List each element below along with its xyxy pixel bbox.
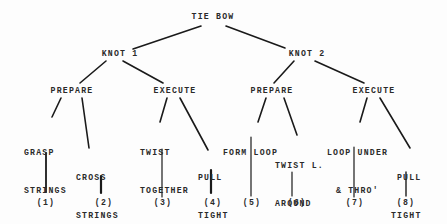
leaf-number-8: (8): [397, 197, 415, 210]
leaf-number-5: (5): [243, 197, 261, 210]
edge-knot1-execute: [123, 61, 163, 83]
node-knot2-execute: EXECUTE: [353, 85, 396, 98]
node-knot1-execute: EXECUTE: [154, 85, 197, 98]
edge-knot2-execute: [315, 61, 364, 83]
node-knot2-prepare: PREPARE: [251, 85, 294, 98]
edge-prepare2-form: [258, 98, 266, 122]
edge-execute1-twist: [160, 98, 167, 122]
edge-root-knot2: [226, 26, 285, 48]
leaf-line: & THRO': [327, 185, 388, 198]
leaf-twist-l-around-loop: TWIST L. AROUND LOOP: [275, 135, 324, 224]
leaf-number-6: (6): [288, 197, 306, 210]
edge-knot2-prepare: [274, 61, 294, 83]
node-knot-1: KNOT 1: [102, 48, 139, 61]
leaf-form-loop: FORM LOOP: [223, 122, 278, 185]
leaf-line: TIGHT: [391, 210, 422, 223]
leaf-number-2: (2): [95, 197, 113, 210]
leaf-cross-strings: CROSS STRINGS: [76, 147, 119, 224]
leaf-line: TWIST L.: [275, 160, 324, 173]
leaf-line: STRINGS: [24, 185, 67, 198]
leaf-number-4: (4): [204, 197, 222, 210]
leaf-line: TIGHT: [198, 210, 229, 223]
leaf-pull-tight-2: PULL TIGHT: [391, 147, 422, 224]
leaf-number-1: (1): [37, 197, 55, 210]
leaf-line: CROSS: [76, 172, 119, 185]
leaf-line: TWIST: [140, 147, 189, 160]
leaf-line: FORM LOOP: [223, 147, 278, 160]
node-knot1-prepare: PREPARE: [51, 85, 94, 98]
task-hierarchy-diagram: TIE BOW KNOT 1 KNOT 2 PREPARE EXECUTE PR…: [0, 0, 447, 224]
edge-root-knot1: [133, 26, 201, 49]
edge-prepare2-twistl: [284, 98, 297, 135]
edge-knot1-prepare: [80, 61, 106, 83]
node-knot-2: KNOT 2: [289, 48, 326, 61]
node-tie-bow: TIE BOW: [192, 11, 235, 24]
leaf-number-7: (7): [346, 197, 364, 210]
edge-prepare1-grasp: [52, 98, 61, 117]
leaf-line: TOGETHER: [140, 185, 189, 198]
leaf-number-3: (3): [154, 197, 172, 210]
edge-execute2-loopunder: [360, 98, 367, 122]
leaf-line: GRASP: [24, 147, 67, 160]
leaf-line: LOOP UNDER: [327, 147, 388, 160]
edge-prepare1-cross: [82, 98, 89, 148]
leaf-line: PULL: [391, 172, 422, 185]
leaf-line: STRINGS: [76, 210, 119, 223]
